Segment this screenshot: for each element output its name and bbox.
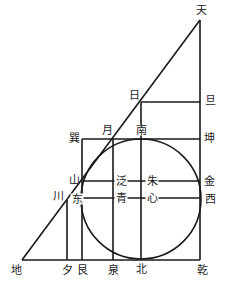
label-chuan: 川 xyxy=(53,191,64,202)
diagram-lines xyxy=(0,0,227,292)
label-xi-evening: 夕 xyxy=(62,265,73,276)
label-dan: 旦 xyxy=(205,95,216,106)
label-xin: 心 xyxy=(146,193,159,204)
label-kun: 坤 xyxy=(204,133,215,144)
label-shan: 山 xyxy=(69,175,80,186)
label-dong: 东 xyxy=(71,194,84,205)
label-jin: 金 xyxy=(204,176,215,187)
label-qing: 青 xyxy=(115,193,128,204)
label-qian: 乾 xyxy=(197,265,208,276)
label-bei: 北 xyxy=(136,264,147,275)
label-nan: 南 xyxy=(135,125,148,136)
label-xi-west: 西 xyxy=(205,194,216,205)
label-zhu: 朱 xyxy=(146,176,159,187)
label-xun: 巽 xyxy=(69,133,80,144)
label-quan: 泉 xyxy=(108,265,119,276)
label-gen: 艮 xyxy=(77,265,88,276)
label-tian: 天 xyxy=(196,5,207,16)
label-di: 地 xyxy=(11,265,22,276)
label-ri: 日 xyxy=(129,90,140,101)
label-fan: 泛 xyxy=(115,176,128,187)
hypotenuse-line xyxy=(22,20,200,260)
label-yue: 月 xyxy=(102,125,113,136)
diagram: 天 日 旦 月 南 巽 坤 山 泛 朱 金 川 东 青 心 西 地 夕 艮 泉 … xyxy=(0,0,227,292)
